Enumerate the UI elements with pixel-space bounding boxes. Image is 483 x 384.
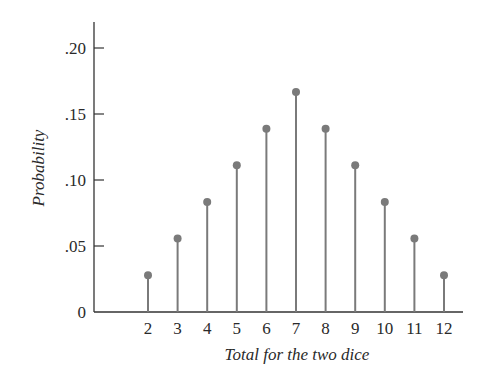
stem-marker: [203, 198, 211, 206]
stem-marker: [292, 88, 300, 96]
x-tick-label: 6: [262, 319, 271, 338]
x-tick-label: 3: [173, 319, 182, 338]
stem-marker: [233, 161, 241, 169]
stem-marker: [351, 161, 359, 169]
x-tick-label: 10: [376, 319, 393, 338]
x-tick-label: 5: [233, 319, 242, 338]
y-axis-ticks: 0.05.10.15.20: [65, 39, 104, 322]
y-axis-title: Probability: [29, 129, 48, 207]
x-tick-label: 12: [436, 319, 453, 338]
stem-marker: [322, 125, 330, 133]
stem-marker: [410, 235, 418, 243]
y-tick-label: .20: [65, 39, 86, 58]
stem-marker: [381, 198, 389, 206]
stem-chart: 0.05.10.15.20 23456789101112 Probability…: [0, 0, 483, 384]
y-tick-label: 0: [78, 303, 87, 322]
x-axis-title: Total for the two dice: [225, 345, 370, 364]
x-tick-label: 11: [406, 319, 422, 338]
x-tick-label: 4: [203, 319, 212, 338]
data-stems: [144, 88, 448, 312]
y-tick-label: .15: [65, 105, 86, 124]
x-tick-label: 2: [144, 319, 153, 338]
axes: [94, 22, 463, 312]
stem-marker: [440, 271, 448, 279]
x-tick-label: 8: [321, 319, 330, 338]
x-axis-ticks: 23456789101112: [144, 319, 453, 338]
y-tick-label: .05: [65, 237, 86, 256]
x-tick-label: 7: [292, 319, 301, 338]
stem-marker: [262, 125, 270, 133]
x-tick-label: 9: [351, 319, 360, 338]
y-tick-label: .10: [65, 171, 86, 190]
stem-marker: [144, 271, 152, 279]
stem-marker: [174, 235, 182, 243]
